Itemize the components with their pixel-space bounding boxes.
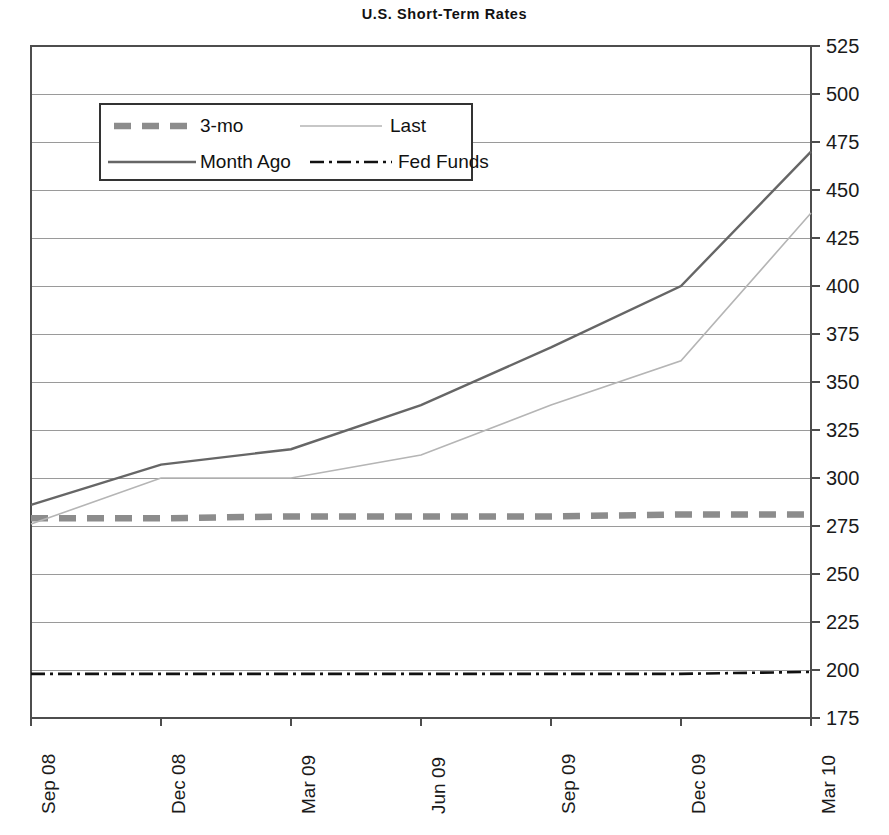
x-axis-tick-label: Mar 10 [818, 755, 840, 814]
y-axis-tick-label: 400 [826, 276, 888, 296]
x-axis-tick-label: Jun 09 [428, 757, 450, 814]
series-lines [31, 152, 811, 674]
y-axis-tick-label: 225 [826, 612, 888, 632]
y-axis-tick-label: 525 [826, 36, 888, 56]
y-axis-tick-label: 200 [826, 660, 888, 680]
legend-item-month-ago: Month Ago [200, 151, 291, 173]
y-axis-tick-label: 475 [826, 132, 888, 152]
y-axis-tick-label: 325 [826, 420, 888, 440]
legend-item-fed-funds: Fed Funds [398, 151, 489, 173]
x-axis-tick-label: Mar 09 [298, 755, 320, 814]
y-axis-tick-label: 300 [826, 468, 888, 488]
chart-container: U.S. Short-Term Rates 525500475450425400… [0, 0, 889, 835]
x-axis-tick-label: Sep 09 [558, 754, 580, 814]
y-axis-tick-label: 375 [826, 324, 888, 344]
x-axis-tick-label: Dec 08 [168, 754, 190, 814]
legend-item-last: Last [390, 115, 426, 137]
legend-item-3-mo: 3-mo [200, 115, 243, 137]
y-axis-tick-label: 250 [826, 564, 888, 584]
y-axis-tick-label: 175 [826, 708, 888, 728]
y-axis-tick-label: 450 [826, 180, 888, 200]
y-axis-tick-label: 350 [826, 372, 888, 392]
y-axis-tick-label: 425 [826, 228, 888, 248]
y-axis-tick-label: 500 [826, 84, 888, 104]
x-axis-tick-label: Sep 08 [38, 754, 60, 814]
y-axis-tick-label: 275 [826, 516, 888, 536]
x-axis-tick-label: Dec 09 [688, 754, 710, 814]
plot-area [0, 0, 889, 835]
